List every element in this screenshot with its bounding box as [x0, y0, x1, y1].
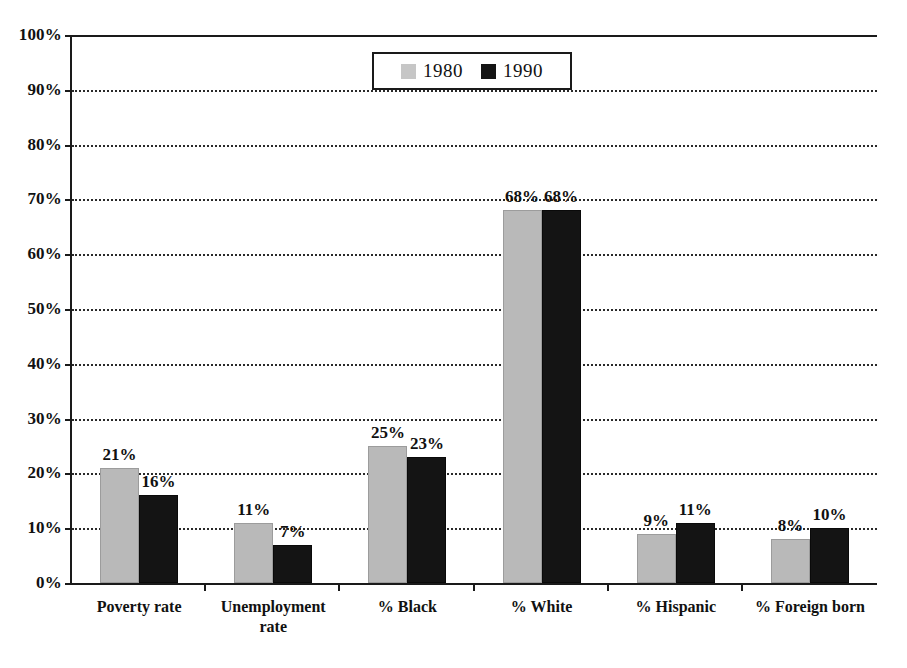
y-axis-tick — [65, 309, 72, 311]
bar-value-label: 10% — [812, 505, 846, 525]
legend-label-1990: 1990 — [503, 60, 543, 82]
bar-value-label: 7% — [280, 522, 306, 542]
bar-1990: 10% — [810, 528, 849, 583]
bar-value-label: 25% — [371, 423, 405, 443]
bar-group: 8%10% — [743, 35, 877, 583]
bar-value-label: 11% — [679, 500, 712, 520]
x-axis-category-label: % Foreign born — [743, 597, 877, 617]
bar-1990: 11% — [676, 523, 715, 583]
y-axis-label: 70% — [27, 189, 62, 209]
legend-swatch-1990-icon — [481, 64, 496, 79]
bar-value-label: 9% — [644, 511, 670, 531]
bar-1990: 68% — [542, 210, 581, 583]
legend-label-1980: 1980 — [423, 60, 463, 82]
legend-item-1980: 1980 — [401, 60, 463, 82]
bar-1990: 7% — [273, 545, 312, 583]
bar-group: 25%23% — [340, 35, 474, 583]
bar-value-label: 21% — [103, 445, 137, 465]
bar-value-label: 23% — [410, 434, 444, 454]
bar-value-label: 16% — [142, 472, 176, 492]
y-axis-label: 60% — [27, 244, 62, 264]
y-axis-tick — [65, 473, 72, 475]
x-axis-tick — [204, 583, 206, 591]
y-axis-label: 50% — [27, 299, 62, 319]
y-axis-label: 100% — [19, 25, 62, 45]
bar-1980: 21% — [100, 468, 139, 583]
x-axis-tick — [741, 583, 743, 591]
y-axis-tick — [65, 364, 72, 366]
y-axis-label: 90% — [27, 80, 62, 100]
bar-1980: 11% — [234, 523, 273, 583]
y-axis-label: 80% — [27, 135, 62, 155]
bar-group: 11%7% — [206, 35, 340, 583]
y-axis-tick — [65, 199, 72, 201]
bar-value-label: 68% — [505, 187, 539, 207]
category-column: 8%10%% Foreign born — [743, 35, 877, 583]
category-column: 9%11%% Hispanic — [609, 35, 743, 583]
y-axis-label: 0% — [36, 573, 62, 593]
bar-value-label: 11% — [237, 500, 270, 520]
y-axis-label: 40% — [27, 354, 62, 374]
category-columns: 21%16%Poverty rate11%7%Unemployment rate… — [72, 35, 877, 583]
y-axis-tick — [65, 90, 72, 92]
y-axis-label: 10% — [27, 518, 62, 538]
bar-value-label: 68% — [544, 187, 578, 207]
chart-legend: 1980 1990 — [372, 52, 572, 90]
y-axis-tick — [65, 419, 72, 421]
y-axis-label: 20% — [27, 463, 62, 483]
x-axis-category-label: % Black — [340, 597, 474, 617]
legend-swatch-1980-icon — [401, 64, 416, 79]
plot-area: 100%90%80%70%60%50%40%30%20%10%0% 21%16%… — [70, 35, 877, 585]
x-axis-category-label: Unemployment rate — [206, 597, 340, 638]
x-axis-tick — [473, 583, 475, 591]
x-axis-category-label: % Hispanic — [609, 597, 743, 617]
bar-1980: 68% — [503, 210, 542, 583]
category-column: 11%7%Unemployment rate — [206, 35, 340, 583]
bar-1990: 16% — [139, 495, 178, 583]
bar-1980: 9% — [637, 534, 676, 583]
bar-1980: 25% — [368, 446, 407, 583]
bar-1980: 8% — [771, 539, 810, 583]
y-axis-tick — [65, 583, 72, 585]
y-axis-label: 30% — [27, 409, 62, 429]
bar-chart: 100%90%80%70%60%50%40%30%20%10%0% 21%16%… — [0, 0, 907, 668]
x-axis-tick — [607, 583, 609, 591]
legend-item-1990: 1990 — [481, 60, 543, 82]
bar-group: 9%11% — [609, 35, 743, 583]
y-axis-tick — [65, 254, 72, 256]
category-column: 21%16%Poverty rate — [72, 35, 206, 583]
x-axis-category-label: Poverty rate — [72, 597, 206, 617]
bar-group: 68%68% — [475, 35, 609, 583]
x-axis-category-label: % White — [475, 597, 609, 617]
y-axis-tick — [65, 145, 72, 147]
bar-1990: 23% — [407, 457, 446, 583]
y-axis-tick — [65, 35, 72, 37]
bar-value-label: 8% — [778, 516, 804, 536]
bar-group: 21%16% — [72, 35, 206, 583]
y-axis-tick — [65, 528, 72, 530]
category-column: 25%23%% Black — [340, 35, 474, 583]
x-axis-tick — [338, 583, 340, 591]
category-column: 68%68%% White — [475, 35, 609, 583]
